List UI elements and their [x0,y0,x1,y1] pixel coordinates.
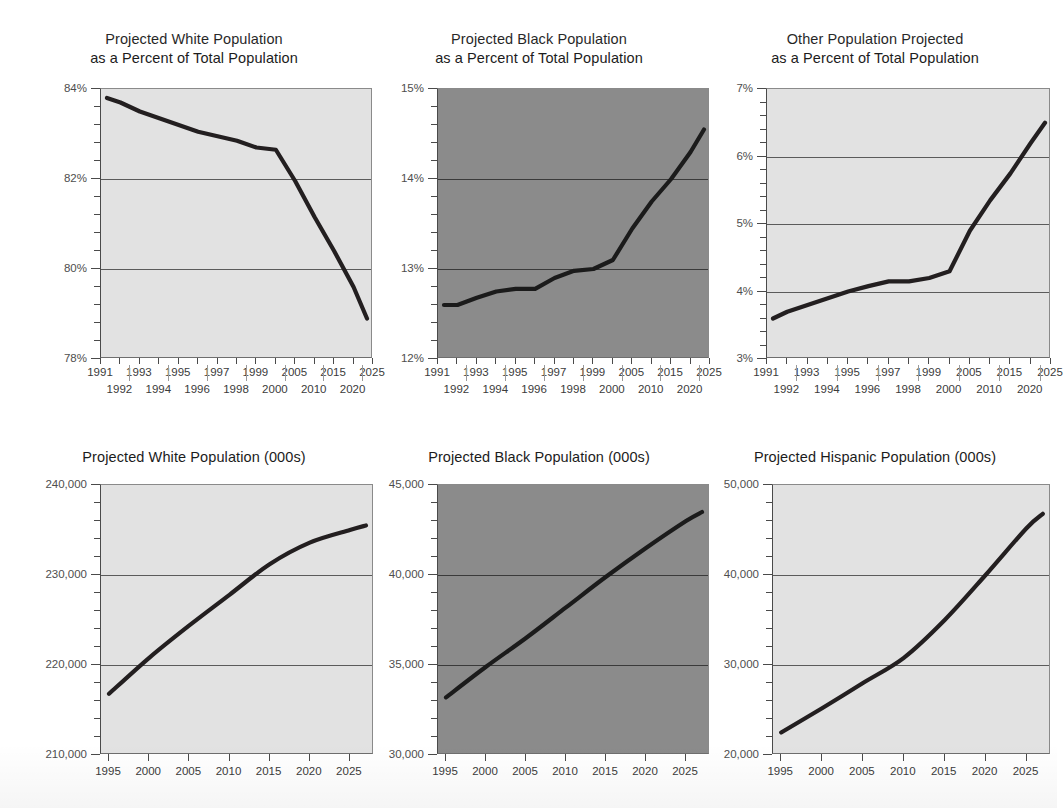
x-tick [236,358,237,364]
x-axis-label: 2010 [552,765,578,777]
y-tick-major [428,88,437,89]
series-layer [438,89,709,358]
y-axis-label: 40,000 [389,568,424,580]
y-axis-label: 7% [736,82,753,94]
y-tick-major [91,268,100,269]
x-axis-label: 2015 [256,765,282,777]
x-tick [139,358,140,364]
y-tick-minor [94,736,100,737]
x-axis-label: 2025 [672,765,698,777]
y-tick-minor [760,102,766,103]
y-tick-minor [431,718,437,719]
y-tick-major [91,574,100,575]
y-tick-minor [431,196,437,197]
x-label-separator [505,365,506,381]
y-tick-minor [766,736,772,737]
y-tick-minor [94,106,100,107]
y-tick-minor [94,124,100,125]
y-tick-major [91,754,100,755]
y-tick-minor [94,718,100,719]
y-tick-minor [431,340,437,341]
x-axis-label: 2020 [972,765,998,777]
y-tick-major [91,88,100,89]
y-tick-minor [431,286,437,287]
x-axis-label: 1998 [560,383,586,395]
y-tick-major [91,178,100,179]
x-axis: 1991199219931994199519961997199819992000… [437,358,709,418]
x-tick [456,358,457,364]
y-tick-minor [766,700,772,701]
x-tick [333,358,334,364]
x-tick [651,358,652,364]
x-axis-label: 2020 [677,383,703,395]
y-axis: 210,000220,000230,000240,000 [14,484,100,754]
plot-area-white-percent: 78%80%82%84%1991199219931994199519961997… [14,30,374,420]
x-label-separator [285,365,286,381]
series-layer [101,485,373,754]
y-tick-minor [94,628,100,629]
x-axis-label: 1994 [146,383,172,395]
x-tick [349,754,350,761]
x-tick [690,358,691,364]
x-tick [908,358,909,364]
y-tick-major [91,664,100,665]
x-tick [178,358,179,364]
x-axis-label: 1998 [895,383,921,395]
y-tick-major [428,358,437,359]
x-tick [786,358,787,364]
x-tick [148,754,149,761]
x-tick [229,754,230,761]
x-tick [108,754,109,761]
y-axis-label: 12% [401,352,424,364]
y-axis-label: 45,000 [389,478,424,490]
x-tick [766,358,767,364]
y-tick-minor [766,682,772,683]
y-tick-minor [766,592,772,593]
y-tick-minor [431,628,437,629]
plot-background [100,484,373,754]
y-tick-major [757,156,766,157]
x-tick [217,358,218,364]
y-tick-minor [760,142,766,143]
x-label-separator [1040,365,1041,381]
x-axis-label: 2015 [592,765,618,777]
y-tick-minor [431,682,437,683]
x-tick [269,754,270,761]
y-axis-label: 30,000 [724,658,759,670]
y-tick-minor [94,556,100,557]
x-axis-label: 2025 [336,765,362,777]
y-axis: 20,00030,00040,00050,000 [700,484,772,754]
y-tick-minor [766,628,772,629]
y-tick-minor [760,345,766,346]
x-tick [807,358,808,364]
series-layer [767,89,1050,358]
x-axis-label: 2020 [1017,383,1043,395]
x-tick [605,754,606,761]
x-tick [437,358,438,364]
y-axis: 78%80%82%84% [14,88,100,358]
x-axis-label: 1991 [424,366,450,378]
x-axis: 1995200020052010201520202025 [437,754,709,808]
x-tick [495,358,496,364]
x-axis-label: 2005 [849,765,875,777]
x-axis-label: 1995 [767,765,793,777]
x-tick [862,754,863,761]
x-tick [685,754,686,761]
x-label-separator [999,365,1000,381]
x-axis-label: 2000 [599,383,625,395]
y-tick-minor [94,646,100,647]
x-label-separator [544,365,545,381]
y-tick-minor [431,538,437,539]
x-tick [1030,358,1031,364]
x-label-separator [466,365,467,381]
chart-panel-black-thousands: Projected Black Population (000s) 30,000… [369,448,709,798]
chart-panel-white-percent: Projected White Population as a Percent … [14,30,374,420]
x-axis-label: 1995 [834,366,860,378]
x-axis-label: 2000 [472,765,498,777]
x-label-separator [207,365,208,381]
x-axis: 1995200020052010201520202025 [100,754,373,808]
chart-panel-black-percent: Projected Black Population as a Percent … [369,30,709,420]
x-axis-label: 1995 [432,765,458,777]
plot-background [437,88,709,358]
y-tick-minor [760,183,766,184]
